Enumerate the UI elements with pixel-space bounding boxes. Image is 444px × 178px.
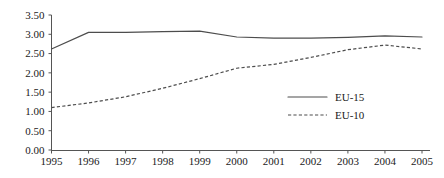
y-tick-label: 0.00 — [25, 144, 45, 156]
x-tick-label: 1995 — [41, 155, 64, 167]
y-tick-label: 3.50 — [25, 9, 45, 21]
x-tick-label: 1997 — [115, 155, 138, 167]
y-tick-label: 2.50 — [25, 47, 45, 59]
series-line-eu-15 — [52, 31, 423, 49]
x-tick-label: 1996 — [78, 155, 101, 167]
y-tick-label: 1.00 — [25, 105, 45, 117]
legend-label: EU-15 — [335, 91, 365, 103]
x-tick-label: 1999 — [189, 155, 212, 167]
legend-label: EU-10 — [335, 109, 365, 121]
series-line-eu-10 — [52, 45, 423, 107]
y-tick-label: 3.00 — [25, 28, 45, 40]
x-tick-label: 2000 — [226, 155, 249, 167]
x-axis-group — [52, 150, 431, 154]
x-tick-label: 2003 — [337, 155, 360, 167]
x-tick-label: 2005 — [411, 155, 434, 167]
y-tick-label: 1.50 — [25, 86, 45, 98]
chart-legend: EU-15EU-10 — [288, 91, 365, 121]
y-axis-tick-labels: 0.000.501.001.502.002.503.003.50 — [25, 9, 45, 156]
chart-canvas: 0.000.501.001.502.002.503.003.50 1995199… — [0, 0, 444, 178]
y-tick-label: 0.50 — [25, 125, 45, 137]
data-series-group — [52, 31, 423, 107]
x-tick-label: 1998 — [152, 155, 175, 167]
x-tick-label: 2002 — [300, 155, 322, 167]
y-axis-group — [49, 15, 52, 150]
x-tick-label: 2004 — [374, 155, 397, 167]
x-tick-label: 2001 — [263, 155, 285, 167]
line-chart: 0.000.501.001.502.002.503.003.50 1995199… — [0, 0, 444, 178]
y-tick-label: 2.00 — [25, 67, 45, 79]
x-axis-tick-labels: 1995199619971998199920002001200220032004… — [41, 155, 434, 167]
